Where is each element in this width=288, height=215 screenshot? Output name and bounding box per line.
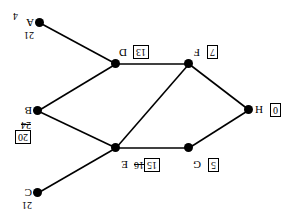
node-distance-e: 15 bbox=[144, 158, 160, 172]
graph-canvas: C21G5E1615H0B2420F7D13A21 4 bbox=[0, 0, 288, 215]
graph-edge bbox=[38, 148, 116, 193]
graph-edge bbox=[38, 64, 116, 111]
node-label-c: C bbox=[25, 187, 32, 198]
node-label-f: F bbox=[194, 47, 200, 58]
node-label-b: B bbox=[25, 105, 32, 116]
node-label-h: H bbox=[255, 104, 263, 115]
graph-edge bbox=[189, 64, 249, 110]
graph-edge bbox=[189, 110, 249, 148]
node-distance-g: 5 bbox=[208, 158, 219, 172]
node-dist-struck-b: 24 bbox=[21, 120, 31, 130]
node-label-g: G bbox=[193, 159, 201, 170]
node-label-d: D bbox=[119, 47, 127, 58]
node-distance-c: 21 bbox=[22, 200, 32, 210]
node-distance-f: 7 bbox=[207, 45, 218, 59]
graph-edge bbox=[38, 111, 116, 148]
node-distance-h: 0 bbox=[270, 103, 281, 117]
stray-label-0: 4 bbox=[13, 11, 18, 21]
node-label-e: E bbox=[121, 159, 128, 170]
node-label-a: A bbox=[26, 17, 34, 28]
node-distance-b: 20 bbox=[15, 130, 31, 144]
node-dist-struck-e: 16 bbox=[134, 160, 144, 170]
graph-edge bbox=[116, 64, 189, 148]
graph-edge bbox=[40, 23, 116, 64]
node-distance-a: 21 bbox=[24, 30, 34, 40]
node-distance-d: 13 bbox=[133, 45, 149, 59]
